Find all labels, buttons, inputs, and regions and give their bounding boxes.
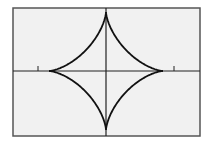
astroid-plot <box>0 0 211 141</box>
